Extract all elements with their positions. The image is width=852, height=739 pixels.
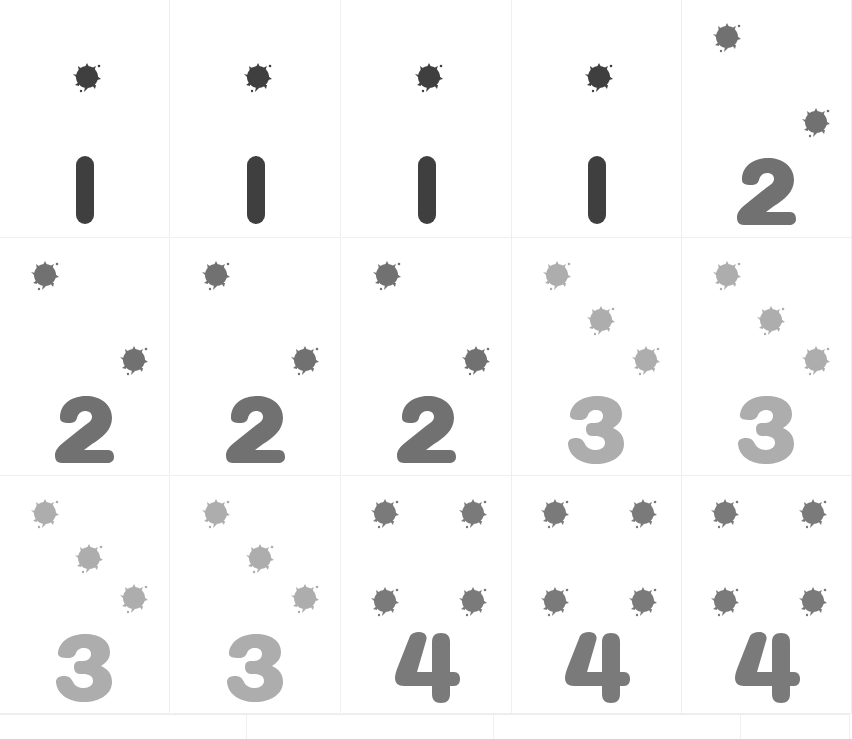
strip-cell [247, 715, 494, 739]
paint-splat-icon [456, 584, 486, 614]
paint-splat-icon [456, 496, 486, 526]
paint-splat-icon [117, 581, 147, 611]
paint-splat-icon [626, 584, 656, 614]
paint-splat-icon [538, 496, 568, 526]
paint-splat-icon [626, 496, 656, 526]
number-card-4 [512, 476, 682, 714]
paint-splat-icon [370, 258, 400, 288]
paint-splat-icon [799, 343, 829, 373]
numeral-glyph [0, 394, 169, 466]
paint-splat-icon [754, 303, 784, 333]
paint-splat-icon [288, 343, 318, 373]
number-card-1 [342, 0, 512, 238]
numeral-glyph [512, 394, 681, 466]
numeral-glyph [512, 155, 681, 225]
paint-splat-icon [629, 343, 659, 373]
numeral-glyph [512, 632, 681, 704]
numeral-glyph [342, 394, 511, 466]
paint-splat-icon [28, 258, 58, 288]
number-card-2 [342, 238, 512, 476]
paint-splat-icon [117, 343, 147, 373]
paint-splat-icon [241, 60, 271, 90]
paint-splat-icon [368, 584, 398, 614]
paint-splat-icon [710, 20, 740, 50]
paint-splat-icon [459, 343, 489, 373]
next-sheet-strip [0, 714, 850, 739]
paint-splat-icon [710, 258, 740, 288]
numeral-glyph [682, 394, 851, 466]
number-card-3 [682, 238, 852, 476]
paint-splat-icon [796, 584, 826, 614]
paint-splat-icon [708, 496, 738, 526]
numeral-glyph [0, 155, 169, 225]
number-card-1 [171, 0, 341, 238]
paint-splat-icon [243, 541, 273, 571]
strip-cell [0, 715, 247, 739]
paint-splat-icon [584, 303, 614, 333]
paint-splat-icon [368, 496, 398, 526]
number-card-2 [0, 238, 170, 476]
number-card-3 [512, 238, 682, 476]
paint-splat-icon [28, 496, 58, 526]
strip-cell [741, 715, 850, 739]
number-card-2 [171, 238, 341, 476]
strip-cell [494, 715, 741, 739]
numeral-glyph [171, 394, 340, 466]
paint-splat-icon [799, 105, 829, 135]
paint-splat-icon [708, 584, 738, 614]
paint-splat-icon [582, 60, 612, 90]
number-card-3 [0, 476, 170, 714]
number-card-1 [512, 0, 682, 238]
paint-splat-icon [199, 496, 229, 526]
paint-splat-icon [199, 258, 229, 288]
paint-splat-icon [70, 60, 100, 90]
numeral-glyph [342, 632, 511, 704]
number-card-2 [682, 0, 852, 238]
paint-splat-icon [412, 60, 442, 90]
number-card-1 [0, 0, 170, 238]
number-card-4 [342, 476, 512, 714]
paint-splat-icon [72, 541, 102, 571]
numeral-glyph [342, 155, 511, 225]
number-card-4 [682, 476, 852, 714]
paint-splat-icon [540, 258, 570, 288]
numeral-glyph [171, 155, 340, 225]
paint-splat-icon [288, 581, 318, 611]
numeral-glyph [682, 156, 851, 228]
paint-splat-icon [538, 584, 568, 614]
numeral-glyph [682, 632, 851, 704]
card-grid [0, 0, 850, 714]
paint-splat-icon [796, 496, 826, 526]
numeral-glyph [0, 632, 169, 704]
numeral-glyph [171, 632, 340, 704]
number-card-3 [171, 476, 341, 714]
